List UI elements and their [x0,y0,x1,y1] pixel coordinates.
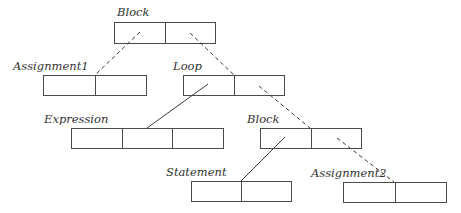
node-label: Loop [172,59,202,73]
node-assignment1: Assignment1 [12,59,147,96]
nodes-layer: BlockAssignment1LoopExpressionBlockState… [12,5,447,203]
node-label: Statement [166,165,227,179]
node-assignment2: Assignment2 [310,166,447,203]
node-label: Expression [43,112,108,126]
node-label: Block [116,5,149,19]
node-label: Block [246,112,279,126]
node-loop: Loop [172,59,285,96]
node-statement: Statement [166,165,292,202]
node-block-root: Block [115,5,216,44]
node-box [72,129,224,149]
node-label: Assignment1 [12,59,89,73]
node-expression: Expression [43,112,224,149]
edges-layer [95,32,394,182]
edge-loop-to-expression [147,84,208,128]
syntax-tree-diagram: BlockAssignment1LoopExpressionBlockState… [0,0,461,213]
node-label: Assignment2 [310,166,387,180]
